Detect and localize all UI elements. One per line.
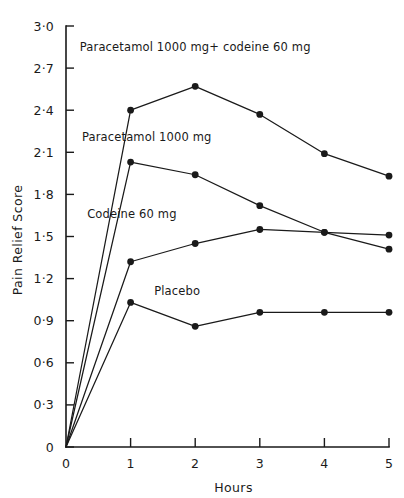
y-tick-label: 1·5	[34, 229, 54, 244]
y-tick-label: 0·3	[34, 397, 54, 412]
line-chart: 0·30·60·91·21·51·82·12·42·73·0 012345 Pa…	[0, 0, 404, 498]
false	[192, 323, 199, 330]
false	[386, 173, 393, 180]
y-tick-label: 1·8	[34, 187, 54, 202]
series-annotations: Paracetamol 1000 mg+ codeine 60 mgParace…	[80, 40, 311, 298]
false	[127, 107, 134, 114]
false	[256, 226, 263, 233]
false	[127, 258, 134, 265]
false	[256, 202, 263, 209]
x-tick-label: 2	[191, 456, 199, 471]
false	[321, 309, 328, 316]
false	[127, 159, 134, 166]
false	[386, 309, 393, 316]
series-label: Placebo	[154, 284, 200, 298]
false	[192, 171, 199, 178]
x-tick-label: 1	[127, 456, 135, 471]
y-tick-label: 2·4	[34, 103, 54, 118]
series-label: Paracetamol 1000 mg+ codeine 60 mg	[80, 40, 311, 54]
series-label: Codeine 60 mg	[87, 207, 176, 221]
false	[386, 246, 393, 253]
series-line	[66, 162, 389, 447]
series-line	[66, 302, 389, 447]
x-axis-title: Hours	[214, 480, 253, 495]
series-2	[66, 159, 392, 447]
origin-label: 0	[46, 440, 54, 455]
x-axis-tick-labels: 012345	[62, 456, 393, 471]
y-axis-title: Pain Relief Score	[10, 185, 25, 296]
x-tick-label: 3	[256, 456, 264, 471]
false	[192, 240, 199, 247]
false	[127, 299, 134, 306]
y-tick-label: 1·2	[34, 271, 54, 286]
y-tick-label: 0·6	[34, 355, 54, 370]
y-tick-label: 2·1	[34, 145, 54, 160]
x-tick-label: 0	[62, 456, 70, 471]
series-label: Paracetamol 1000 mg	[82, 130, 212, 144]
false	[386, 232, 393, 239]
series-4	[66, 299, 392, 447]
x-tick-label: 4	[320, 456, 328, 471]
false	[321, 150, 328, 157]
false	[256, 309, 263, 316]
y-axis-tick-labels: 0·30·60·91·21·51·82·12·42·73·0	[34, 19, 54, 413]
false	[192, 83, 199, 90]
y-tick-label: 2·7	[34, 61, 54, 76]
y-tick-label: 0·9	[34, 313, 54, 328]
chart-figure: 0·30·60·91·21·51·82·12·42·73·0 012345 Pa…	[0, 0, 404, 498]
y-tick-label: 3·0	[34, 19, 54, 34]
false	[321, 229, 328, 236]
false	[256, 111, 263, 118]
x-tick-label: 5	[385, 456, 393, 471]
